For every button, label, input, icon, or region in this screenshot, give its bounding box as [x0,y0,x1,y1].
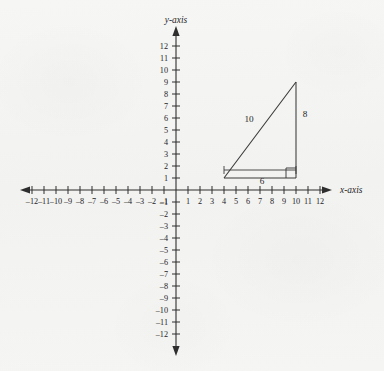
y-tick-label: –9 [159,294,168,303]
y-tick-label: –6 [159,258,168,267]
y-tick-label: 1 [164,174,168,183]
triangle-hypotenuse [224,82,296,178]
y-tick-label: –1 [159,198,168,207]
y-axis-label: y-axis [164,15,188,25]
coordinate-plane-figure: x-axis y-axis –12–11–10–9–8–7–6–5–4–3–2–… [0,0,384,371]
x-tick-label: 11 [304,197,312,206]
y-tick-label: 10 [160,66,168,75]
x-tick-label: –10 [49,197,62,206]
x-tick-label: –6 [99,197,108,206]
y-tick-label: 3 [164,150,168,159]
y-tick-label: –7 [159,270,168,279]
x-tick-label: –3 [135,197,144,206]
y-tick-label: 8 [164,90,168,99]
right-angle-marker [286,168,296,178]
y-tick-label: –4 [159,234,168,243]
y-axis-top-arrow [172,26,179,36]
right-triangle-group [224,82,296,178]
x-tick-label: 7 [258,197,262,206]
x-tick-label: –12 [25,197,38,206]
x-tick-label: 1 [186,197,190,206]
x-tick-label: 9 [282,197,286,206]
x-axis-ticks: –12–11–10–9–8–7–6–5–4–3–2–11234567891011… [25,186,324,206]
base-dimension-group [224,166,296,174]
y-tick-label: 11 [160,54,168,63]
axes-group [20,26,332,356]
x-tick-label: –7 [87,197,96,206]
x-tick-label: 2 [198,197,202,206]
x-tick-label: 3 [210,197,214,206]
x-tick-label: 4 [222,197,226,206]
x-tick-label: –5 [111,197,120,206]
x-tick-label: 5 [234,197,238,206]
x-axis-right-arrow [322,186,332,193]
y-tick-label: –11 [155,318,168,327]
y-tick-label: –3 [159,222,168,231]
y-tick-label: 4 [164,138,168,147]
y-tick-label: 6 [164,114,168,123]
y-tick-label: 2 [164,162,168,171]
x-tick-label: –8 [75,197,84,206]
x-tick-label: –11 [37,197,50,206]
y-tick-label: 7 [164,102,168,111]
x-tick-label: 8 [270,197,274,206]
vertical-leg-label: 8 [303,109,308,119]
x-axis-left-arrow [20,186,30,193]
coordinate-plane-svg: x-axis y-axis –12–11–10–9–8–7–6–5–4–3–2–… [0,0,384,371]
x-tick-label: 6 [246,197,250,206]
y-tick-label: 5 [164,126,168,135]
y-tick-label: –8 [159,282,168,291]
y-tick-label: –5 [159,246,168,255]
y-tick-label: –12 [155,330,168,339]
y-tick-label: –10 [155,306,168,315]
x-tick-label: –9 [63,197,72,206]
y-axis-bottom-arrow [172,346,179,356]
x-tick-label: –2 [147,197,156,206]
x-axis-label: x-axis [339,185,363,195]
x-tick-label: –4 [123,197,132,206]
y-tick-label: 12 [160,42,168,51]
y-tick-label: –2 [159,210,168,219]
x-tick-label: 10 [292,197,300,206]
x-tick-label: 12 [316,197,324,206]
hypotenuse-label: 10 [244,114,254,124]
y-tick-label: 9 [164,78,168,87]
horizontal-leg-label: 6 [260,176,265,186]
